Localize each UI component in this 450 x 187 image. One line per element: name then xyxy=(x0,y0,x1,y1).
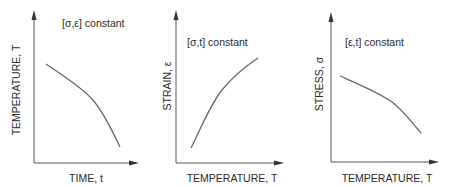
panel-stress-vs-temperature: [ε,t] constant TEMPERATURE, T STRESS, σ xyxy=(313,12,439,184)
x-axis-arrow-icon xyxy=(274,161,284,166)
y-axis-arrow-icon xyxy=(32,10,37,20)
y-axis-label: STRAIN, ε xyxy=(161,61,173,110)
y-axis-arrow-icon xyxy=(329,12,334,22)
x-axis-label: TIME, t xyxy=(69,172,103,184)
x-axis-label: TEMPERATURE, T xyxy=(342,172,433,184)
x-axis-label: TEMPERATURE, T xyxy=(187,172,278,184)
x-axis-arrow-icon xyxy=(429,160,439,165)
panel-strain-vs-temperature: [σ,t] constant TEMPERATURE, T STRAIN, ε xyxy=(161,10,284,184)
diagram-canvas: [σ,ε] constant TIME, t TEMPERATURE, T [σ… xyxy=(0,0,450,187)
constraint-annotation: [σ,ε] constant xyxy=(62,17,125,29)
y-axis-arrow-icon xyxy=(174,10,179,20)
constraint-annotation: [σ,t] constant xyxy=(187,36,248,48)
curve xyxy=(191,58,258,148)
curve xyxy=(340,76,421,133)
x-axis-arrow-icon xyxy=(129,161,139,166)
constraint-annotation: [ε,t] constant xyxy=(345,36,404,48)
y-axis-label: TEMPERATURE, T xyxy=(10,44,22,135)
curve xyxy=(46,64,120,147)
y-axis-label: STRESS, σ xyxy=(313,56,325,111)
panel-temperature-vs-time: [σ,ε] constant TIME, t TEMPERATURE, T xyxy=(10,10,139,184)
